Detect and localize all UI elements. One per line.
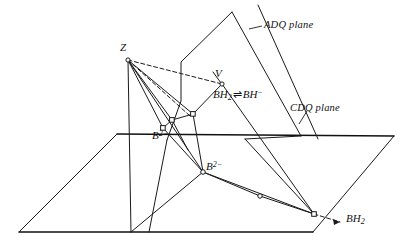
adq-leader: [249, 26, 262, 29]
b2minus-upper-superscript: 2−: [159, 129, 168, 138]
b2minus-upper-prefix: B: [152, 129, 159, 141]
figure-drawing: [0, 0, 409, 247]
point-z-label: Z: [120, 42, 126, 53]
figure-root: ADQ plane CDQ plane Z V BH2⇌BH− B2− B2− …: [0, 0, 409, 247]
sheet-fold-lower: [149, 140, 167, 232]
edge-apex-to-b2l: [131, 172, 203, 232]
adq-left-edge: [232, 12, 301, 136]
node-n1: [191, 112, 196, 117]
b2minus-lower-prefix: B: [206, 160, 213, 172]
cdq-plane-outline: [19, 134, 394, 232]
edge-z-to-b2-upper: [128, 60, 163, 128]
species-b2minus-upper-label: B2−: [152, 130, 168, 141]
species-bh2-arrow-label: BH2: [346, 213, 365, 226]
cdq-plane-label: CDQ plane: [290, 103, 340, 114]
edge-b2l-to-node4: [203, 172, 314, 214]
sheet-fold-edge: [167, 12, 232, 140]
node-n3: [258, 194, 262, 198]
adq-plane-label: ADQ plane: [264, 20, 313, 31]
node-z: [126, 58, 130, 62]
point-v-label: V: [215, 68, 222, 79]
b2minus-lower-superscript: 2−: [213, 160, 222, 169]
z-ray-bundle: [128, 60, 222, 232]
node-n4: [312, 212, 317, 217]
bh2-arrow-prefix: BH: [346, 212, 361, 224]
bh2-prefix: BH: [213, 88, 228, 100]
node-b2-lower: [201, 170, 206, 175]
bh2-arrow-subscript: 2: [361, 217, 365, 226]
bh-minus-prefix: BH: [243, 88, 258, 100]
bh-minus-superscript: −: [257, 88, 262, 97]
node-n2: [170, 118, 175, 123]
species-b2minus-lower-label: B2−: [206, 161, 222, 172]
node-v: [220, 82, 224, 86]
adq-base-edge: [245, 136, 301, 139]
bh2-arrow-head: [333, 219, 340, 225]
edge-z-to-apex: [128, 60, 131, 232]
species-bh2-bh-minus-label: BH2⇌BH−: [213, 89, 263, 102]
equilibrium-sign: ⇌: [232, 88, 243, 100]
cdq-left-edge: [19, 134, 117, 232]
